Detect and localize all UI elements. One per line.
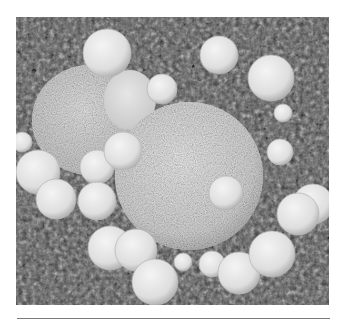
small-sphere xyxy=(132,259,178,305)
small-sphere xyxy=(36,179,76,219)
micrograph-scene xyxy=(16,17,329,305)
small-sphere xyxy=(83,29,131,77)
small-sphere xyxy=(174,253,192,271)
main-sphere-body xyxy=(115,102,263,250)
small-sphere xyxy=(267,139,293,165)
small-sphere xyxy=(274,104,292,122)
small-sphere xyxy=(249,231,295,277)
main-sphere xyxy=(115,102,263,250)
bottom-rule xyxy=(17,318,330,319)
small-sphere xyxy=(209,176,243,210)
small-sphere xyxy=(16,132,32,152)
small-sphere xyxy=(147,74,177,104)
small-sphere xyxy=(78,182,116,220)
small-sphere xyxy=(248,55,294,101)
small-sphere xyxy=(277,193,319,235)
small-sphere xyxy=(104,132,142,170)
small-sphere xyxy=(200,36,238,74)
sem-micrograph xyxy=(16,17,329,305)
